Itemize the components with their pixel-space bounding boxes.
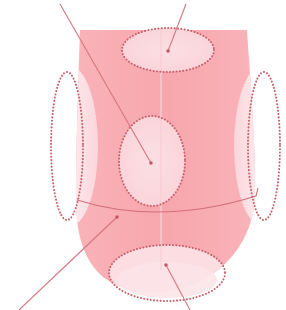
anchor-dot-center bbox=[149, 161, 153, 165]
anchor-dot-boundary bbox=[115, 215, 119, 219]
tongue-diagram bbox=[0, 0, 286, 310]
anchor-dot-tip bbox=[164, 263, 168, 267]
tongue-diagram-canvas bbox=[0, 0, 286, 310]
anchor-dot-root bbox=[166, 49, 170, 53]
